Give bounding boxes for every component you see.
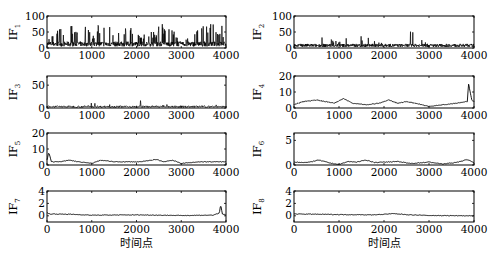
if4-line <box>294 84 474 106</box>
x-tick-label: 4000 <box>461 223 488 235</box>
chart-panel-if6: 0100020003000400005IF6 <box>251 133 487 178</box>
chart-panel-if4: 0100020003000400001020IF4 <box>251 70 487 122</box>
y-axis-label: IF7 <box>7 198 22 214</box>
x-tick-label: 3000 <box>168 166 195 178</box>
x-tick-label: 1000 <box>326 49 353 61</box>
y-tick-label: 0 <box>38 42 45 54</box>
x-tick-label: 3000 <box>168 49 195 61</box>
y-tick-label: 4 <box>38 185 45 197</box>
y-tick-label: 50 <box>32 26 45 38</box>
y-tick-label: 50 <box>32 79 45 91</box>
y-axis-label: IF8 <box>251 198 266 214</box>
x-tick-label: 1000 <box>78 223 105 235</box>
y-axis-label: IF5 <box>7 141 22 157</box>
axes-frame <box>294 16 474 48</box>
x-tick-label: 4000 <box>213 109 240 121</box>
x-tick-label: 0 <box>44 223 51 235</box>
x-tick-label: 0 <box>291 223 298 235</box>
if2-line <box>294 32 474 47</box>
x-tick-label: 3000 <box>416 166 443 178</box>
y-tick-label: 100 <box>25 10 45 22</box>
if5-line <box>47 154 226 164</box>
x-tick-label: 4000 <box>461 49 488 61</box>
chart-panel-if5: 0100020003000400001020IF5 <box>7 127 239 179</box>
axes-frame <box>294 191 474 222</box>
x-tick-label: 2000 <box>371 223 398 235</box>
x-tick-label: 2000 <box>371 49 398 61</box>
axes-frame <box>47 191 226 222</box>
if1-line <box>47 24 226 46</box>
y-tick-label: 0 <box>285 159 292 171</box>
chart-panel-if8: 01000200030004000024IF8时间点 <box>251 185 487 251</box>
y-tick-label: 2 <box>38 197 45 209</box>
x-tick-label: 1000 <box>78 109 105 121</box>
x-tick-label: 1000 <box>78 49 105 61</box>
x-tick-label: 2000 <box>123 166 150 178</box>
y-tick-label: 0 <box>285 102 292 114</box>
y-tick-label: 20 <box>279 70 292 82</box>
y-axis-label: IF1 <box>7 24 22 40</box>
x-tick-label: 1000 <box>78 166 105 178</box>
axes-frame <box>47 76 226 108</box>
x-tick-label: 4000 <box>213 49 240 61</box>
x-tick-label: 2000 <box>123 109 150 121</box>
y-axis-label: IF4 <box>251 83 266 100</box>
y-axis-label: IF3 <box>7 84 22 100</box>
y-tick-label: 4 <box>285 185 292 197</box>
y-tick-label: 0 <box>38 102 45 114</box>
chart-panel-if2: 01000200030004000050100IF2 <box>251 10 487 62</box>
x-axis-label: 时间点 <box>368 237 401 250</box>
axes-frame <box>294 76 474 108</box>
y-tick-label: 50 <box>279 26 292 38</box>
x-axis-label: 时间点 <box>120 237 153 250</box>
x-tick-label: 4000 <box>461 109 488 121</box>
x-tick-label: 3000 <box>416 223 443 235</box>
y-tick-label: 20 <box>32 127 45 139</box>
chart-panel-if1: 01000200030004000050100IF1 <box>7 10 239 62</box>
y-tick-label: 0 <box>38 209 45 221</box>
if8-line <box>294 213 474 216</box>
x-tick-label: 3000 <box>416 49 443 61</box>
chart-panel-if3: 01000200030004000050IF3 <box>7 76 239 121</box>
y-tick-label: 0 <box>285 209 292 221</box>
x-tick-label: 3000 <box>168 223 195 235</box>
x-tick-label: 4000 <box>461 166 488 178</box>
x-tick-label: 1000 <box>326 223 353 235</box>
y-tick-label: 10 <box>32 143 45 155</box>
y-axis-label: IF6 <box>251 140 266 157</box>
if-components-figure: 01000200030004000050100IF101000200030004… <box>0 0 491 257</box>
if7-line <box>47 206 226 215</box>
y-axis-label: IF2 <box>251 24 266 40</box>
x-tick-label: 4000 <box>213 166 240 178</box>
y-tick-label: 10 <box>279 86 292 98</box>
x-tick-label: 1000 <box>326 109 353 121</box>
chart-panel-if7: 01000200030004000024IF7时间点 <box>7 185 239 251</box>
y-tick-label: 0 <box>285 42 292 54</box>
y-tick-label: 0 <box>38 159 45 171</box>
y-tick-label: 2 <box>285 197 292 209</box>
x-tick-label: 1000 <box>326 166 353 178</box>
y-tick-label: 100 <box>272 10 292 22</box>
x-tick-label: 3000 <box>168 109 195 121</box>
axes-frame <box>47 133 226 165</box>
y-tick-label: 5 <box>285 134 292 146</box>
x-tick-label: 4000 <box>213 223 240 235</box>
x-tick-label: 2000 <box>123 223 150 235</box>
x-tick-label: 2000 <box>371 109 398 121</box>
x-tick-label: 3000 <box>416 109 443 121</box>
x-tick-label: 2000 <box>123 49 150 61</box>
x-tick-label: 2000 <box>371 166 398 178</box>
